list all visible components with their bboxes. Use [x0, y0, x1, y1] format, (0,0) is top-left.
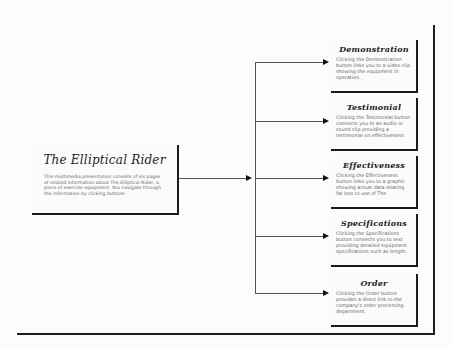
connector-branch-effectiveness	[255, 178, 325, 179]
connector-branch-testimonial	[255, 121, 325, 122]
arrow-head-icon	[323, 233, 329, 239]
page-node-title: Testimonial	[336, 102, 412, 112]
connector-branch-order	[255, 293, 325, 294]
arrow-head-icon	[323, 175, 329, 181]
connector-branch-demonstration	[255, 62, 325, 63]
page-node-description: Clicking the Testimonial button connects…	[336, 115, 412, 139]
page-frame-bottom-edge	[17, 333, 435, 335]
arrow-head-icon	[323, 290, 329, 296]
page-node-title: Specifications	[336, 218, 412, 228]
page-node-description: Clicking the Effectiveness button links …	[336, 173, 412, 197]
page-node-description: Clicking the Specifications button conne…	[336, 231, 412, 255]
page-node-description: Clicking the Demonstration button links …	[336, 57, 412, 81]
page-node-title: Demonstration	[336, 44, 412, 54]
page-node-effectiveness: Effectiveness Clicking the Effectiveness…	[331, 156, 418, 209]
page-node-order: Order Clicking the Order button provides…	[331, 274, 418, 327]
arrow-head-icon	[246, 175, 252, 181]
main-node-title: The Elliptical Rider	[40, 153, 169, 167]
main-node-description: This multimedia presentation consists of…	[40, 174, 169, 197]
diagram-canvas: The Elliptical Rider This multimedia pre…	[0, 0, 451, 349]
connector-branch-specifications	[255, 236, 325, 237]
page-node-specifications: Specifications Clicking the Specificatio…	[331, 214, 418, 267]
arrow-head-icon	[323, 59, 329, 65]
connector-main-to-trunk	[179, 178, 249, 179]
main-node-elliptical-rider: The Elliptical Rider This multimedia pre…	[32, 145, 179, 215]
page-frame-right-edge	[433, 25, 435, 335]
page-node-title: Effectiveness	[336, 160, 412, 170]
page-node-description: Clicking the Order button provides a dir…	[336, 291, 412, 315]
arrow-head-icon	[323, 118, 329, 124]
page-node-demonstration: Demonstration Clicking the Demonstration…	[331, 40, 418, 93]
page-node-testimonial: Testimonial Clicking the Testimonial but…	[331, 98, 418, 151]
page-node-title: Order	[336, 278, 412, 288]
